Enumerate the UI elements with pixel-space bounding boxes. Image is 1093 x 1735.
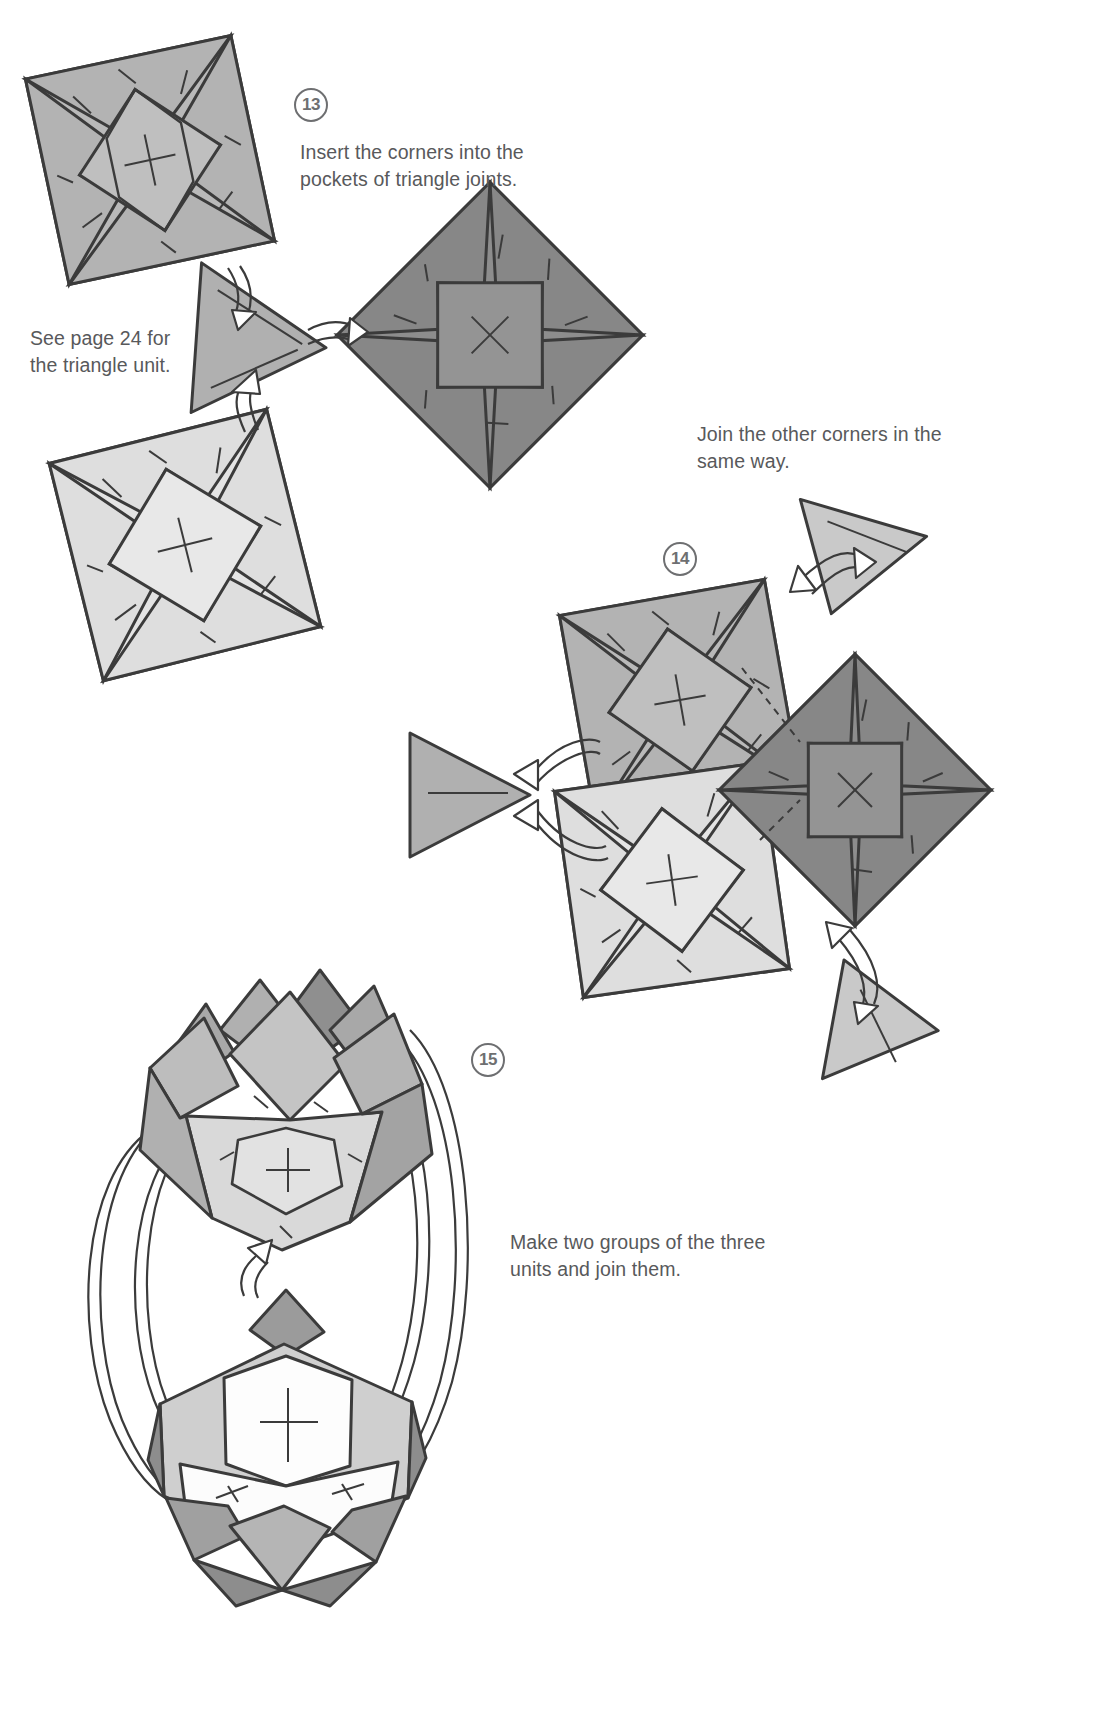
caption-step-13: Insert the corners into the pockets of t… (300, 139, 600, 193)
step-number-14: 14 (663, 542, 697, 576)
triangle-joint-14-bottom-right (811, 960, 950, 1106)
assembled-group-lower (148, 1290, 426, 1606)
caption-triangle-unit-reference: See page 24 for the triangle unit. (30, 325, 240, 379)
square-unit-lower-left (49, 409, 321, 681)
step-number-15: 15 (471, 1043, 505, 1077)
join-arrow-center (241, 1240, 272, 1298)
square-unit-upper-left (25, 35, 274, 284)
triangle-joint-14-left (410, 733, 530, 857)
step-number-13: 13 (294, 88, 328, 122)
origami-diagram-artwork (0, 0, 1093, 1735)
figure-step-15 (88, 970, 467, 1606)
figure-step-14 (410, 463, 991, 1105)
instruction-page: 13 14 15 Insert the corners into the poc… (0, 0, 1093, 1735)
caption-step-14: Join the other corners in the same way. (697, 421, 987, 475)
caption-step-15: Make two groups of the three units and j… (510, 1229, 840, 1283)
assembled-group-upper (140, 970, 432, 1250)
square-unit-right-dark (337, 182, 642, 487)
